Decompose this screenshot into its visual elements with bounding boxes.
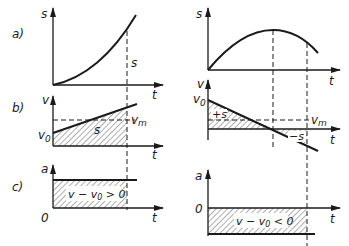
y-label-s: s xyxy=(41,7,47,21)
right-panel-b-velocity: v v0 +s −s vm t xyxy=(193,77,340,151)
y-label-a: a xyxy=(41,162,48,176)
y-label-s: s xyxy=(196,7,202,21)
area-label: v − v0 > 0 xyxy=(66,186,126,202)
svg-text:v − v0 > 0: v − v0 > 0 xyxy=(68,188,126,202)
x-label-t: t xyxy=(330,212,336,226)
x-label-t: t xyxy=(152,88,158,102)
v0-label: v0 xyxy=(193,92,206,108)
area-label: v − v0 < 0 xyxy=(234,213,294,229)
y-label-v: v xyxy=(42,93,50,107)
area-label-s: s xyxy=(94,123,100,137)
y-label-v: v xyxy=(197,77,205,91)
y-label-a: a xyxy=(195,169,202,183)
right-panel-c-acceleration: a 0 t v − v0 < 0 xyxy=(195,169,340,236)
svg-text:+s: +s xyxy=(212,108,227,121)
row-label-c: c) xyxy=(12,180,23,194)
x-label-t: t xyxy=(329,74,335,88)
x-label-t: t xyxy=(330,133,336,147)
annotation-s: s xyxy=(131,56,137,70)
x-label-t: t xyxy=(152,211,158,225)
svg-text:v − v0 < 0: v − v0 < 0 xyxy=(236,215,294,229)
v0-label: v0 xyxy=(38,128,51,144)
zero-label: 0 xyxy=(195,202,203,216)
vm-label: vm xyxy=(311,113,327,128)
minus-s-label: −s xyxy=(288,130,306,143)
row-label-a: a) xyxy=(12,27,24,41)
origin-label-0: 0 xyxy=(41,211,49,225)
x-label-t: t xyxy=(152,148,158,162)
left-panel-c-acceleration: a 0 t v − v0 > 0 xyxy=(41,162,163,225)
displacement-curve xyxy=(208,30,318,70)
left-panel-b-velocity: v v0 vm s t xyxy=(38,93,163,162)
svg-text:−s: −s xyxy=(289,130,304,143)
parabola-curve xyxy=(53,15,136,85)
area-s-hatched xyxy=(53,107,127,146)
kinematics-diagram: a) b) c) s t s v v0 vm s t a 0 t v − v0 … xyxy=(0,0,349,246)
vm-label: vm xyxy=(131,113,147,128)
row-label-b: b) xyxy=(12,101,24,115)
plus-s-label: +s xyxy=(211,108,227,121)
